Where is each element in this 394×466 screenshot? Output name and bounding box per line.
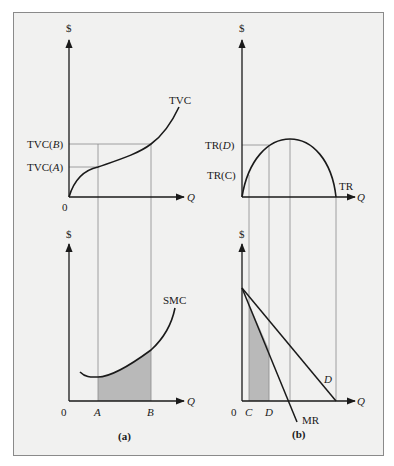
b-top-y-label: $ <box>239 22 245 34</box>
b-bot-y-label: $ <box>239 228 245 240</box>
tick-label-c: C <box>245 406 253 418</box>
panel-a-caption: (a) <box>118 430 131 443</box>
economics-diagram: $ Q 0 TVC TVC(B) TVC(A) $ Q 0 A B SMC (a… <box>0 0 394 466</box>
trc-label: TR(C) <box>207 169 236 182</box>
mr-line-label: MR <box>302 414 320 426</box>
smc-curve-label: SMC <box>163 294 186 306</box>
a-bot-origin-label: 0 <box>61 406 67 418</box>
tvcb-label: TVC(B) <box>27 138 63 151</box>
panel-b-caption: (b) <box>292 428 306 441</box>
a-top-origin-label: 0 <box>62 201 68 213</box>
a-bot-x-label: Q <box>187 395 195 407</box>
b-bot-x-label: Q <box>357 395 365 407</box>
demand-line-label: D <box>323 373 332 385</box>
a-top-x-label: Q <box>187 191 195 203</box>
tick-label-a: A <box>93 406 101 418</box>
tr-curve-label: TR <box>339 180 354 192</box>
b-top-x-label: Q <box>357 191 365 203</box>
tick-label-d: D <box>264 406 273 418</box>
trd-label: TR(D) <box>205 139 235 152</box>
tick-label-b: B <box>147 406 154 418</box>
a-top-y-label: $ <box>66 22 72 34</box>
tvc-curve-label: TVC <box>169 94 191 106</box>
tvca-label: TVC(A) <box>27 161 63 174</box>
a-bot-y-label: $ <box>66 228 72 240</box>
b-bot-origin-label: 0 <box>231 406 237 418</box>
